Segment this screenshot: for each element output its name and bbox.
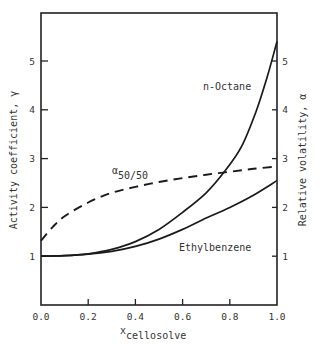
data-series bbox=[41, 42, 277, 257]
right-y-tick-label: 5 bbox=[282, 56, 288, 67]
right-y-axis-ticks: 12345 bbox=[272, 56, 288, 262]
x-tick-label: 0.2 bbox=[80, 311, 97, 322]
left-y-tick-label: 1 bbox=[29, 251, 35, 262]
x-tick-label: 0.4 bbox=[127, 311, 144, 322]
alpha-subscript: 50/50 bbox=[118, 170, 148, 181]
right-y-tick-label: 2 bbox=[282, 202, 288, 213]
series-n-octane-line bbox=[41, 42, 277, 257]
annotation-n-octane: n-Octane bbox=[203, 81, 251, 92]
x-tick-label: 0.0 bbox=[32, 311, 49, 322]
left-y-tick-label: 4 bbox=[29, 104, 35, 115]
right-y-tick-label: 1 bbox=[282, 251, 288, 262]
plot-frame bbox=[41, 13, 277, 305]
x-tick-label: 1.0 bbox=[268, 311, 285, 322]
right-y-tick-label: 3 bbox=[282, 153, 288, 164]
x-axis-ticks: 0.00.20.40.60.81.0 bbox=[32, 299, 285, 322]
left-y-tick-label: 3 bbox=[29, 153, 35, 164]
x-axis-label: xcellosolve bbox=[120, 325, 186, 341]
right-y-tick-label: 4 bbox=[282, 104, 288, 115]
right-y-axis-label: Relative volatility, α bbox=[297, 94, 308, 226]
left-y-tick-label: 5 bbox=[29, 56, 35, 67]
x-axis-label-subscript: cellosolve bbox=[126, 330, 186, 341]
left-y-tick-label: 2 bbox=[29, 202, 35, 213]
annotation-alpha-50-50: α50/50 bbox=[112, 165, 148, 181]
left-y-axis-ticks: 12345 bbox=[29, 56, 48, 262]
annotation-ethylbenzene: Ethylbenzene bbox=[179, 242, 251, 253]
activity-coefficient-chart: 0.00.20.40.60.81.0 12345 12345 Activity … bbox=[0, 0, 320, 347]
x-tick-label: 0.8 bbox=[221, 311, 238, 322]
x-tick-label: 0.6 bbox=[174, 311, 191, 322]
left-y-axis-label: Activity coefficient, γ bbox=[8, 91, 19, 229]
